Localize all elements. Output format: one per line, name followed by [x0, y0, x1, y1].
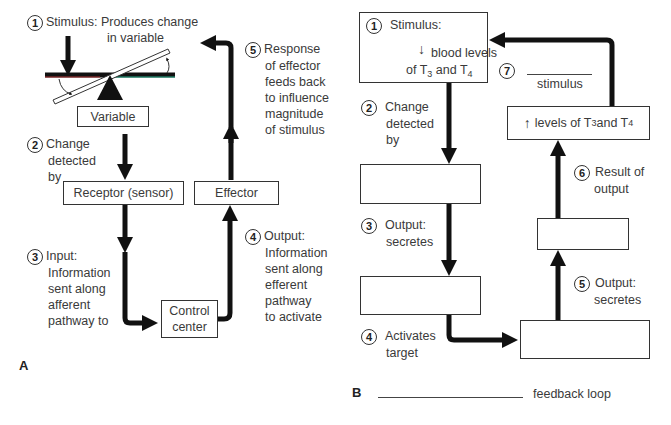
control-center-box: Control center: [161, 300, 218, 338]
step-6-result: 6Result of output: [574, 164, 644, 197]
step-1-stimulus: 1Stimulus: Produces change: [27, 14, 198, 31]
step-5-output-b: 5Output: secretes: [574, 275, 641, 308]
step-7-blank-line: [527, 74, 592, 75]
down-arrow-icon: ↓: [418, 41, 425, 57]
variable-box: Variable: [77, 106, 149, 127]
step-2-change-detected-b: 2Change detected by: [361, 99, 434, 148]
up-arrow-icon: ↑: [524, 115, 531, 131]
blank-box-target[interactable]: [520, 320, 650, 359]
levels-box: ↑ levels of T3 and T4: [507, 106, 650, 140]
step-1-stimulus-line2: in variable: [107, 30, 164, 46]
stimulus-box: 1Stimulus: ↓ blood levels of T3 and T4: [359, 12, 488, 83]
feedback-type-blank[interactable]: [378, 397, 523, 398]
seesaw-icon: [45, 49, 175, 104]
feedback-loop-text: feedback loop: [533, 386, 611, 402]
arrows-layer: [0, 0, 671, 425]
step-4-activates: 4Activates target: [361, 328, 436, 361]
panel-a-label: A: [19, 358, 28, 373]
step-4-output: 4Output: Information sent along efferent…: [245, 228, 328, 325]
step-2-change-detected: 2Change detected by: [27, 136, 96, 185]
t3-t4-text: of T3 and T4: [406, 62, 473, 78]
step-7: 7: [499, 62, 518, 79]
step-number: 1: [27, 15, 43, 31]
panel-b-label: B: [352, 385, 361, 400]
step-3-output-b: 3Output: secretes: [361, 217, 433, 250]
blank-box-receptor[interactable]: [360, 164, 481, 204]
blank-box-control-center[interactable]: [360, 276, 481, 315]
step-7-stimulus-label: stimulus: [537, 76, 583, 92]
effector-box: Effector: [194, 181, 279, 205]
step-3-input: 3Input: Information sent along afferent …: [27, 248, 111, 329]
blank-box-hormone[interactable]: [537, 218, 629, 250]
step-5-response: 5Response of effector feeds back to infl…: [245, 41, 329, 138]
feedback-loop-diagram: 1Stimulus: Produces change in variable V…: [0, 0, 671, 425]
receptor-box: Receptor (sensor): [63, 181, 184, 205]
